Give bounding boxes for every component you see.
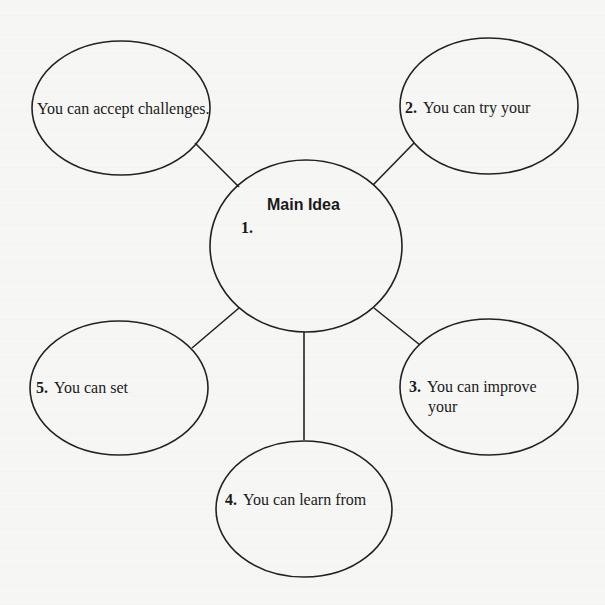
node-4-number: 4. xyxy=(225,491,237,508)
connector-top-right xyxy=(373,143,414,185)
idea-web-diagram: Main Idea 1. You can accept challenges. … xyxy=(0,0,605,605)
bubble-bottom xyxy=(216,441,392,577)
node-5-text: 5.You can set xyxy=(36,378,128,397)
node-5-number: 5. xyxy=(36,379,48,396)
node-example-text: You can accept challenges. xyxy=(37,99,210,118)
node-3-label: You can improve xyxy=(427,378,536,395)
node-4-text: 4.You can learn from xyxy=(225,490,366,509)
node-3-number: 3. xyxy=(409,378,421,395)
connector-bottom-left xyxy=(192,308,239,348)
main-idea-title: Main Idea xyxy=(267,196,340,214)
connector-bottom-right xyxy=(374,308,420,345)
node-3-text-line2: your xyxy=(428,397,457,416)
main-idea-number: 1. xyxy=(241,219,253,237)
node-5-label: You can set xyxy=(54,379,128,396)
node-2-text: 2.You can try your xyxy=(405,98,530,117)
node-2-label: You can try your xyxy=(423,99,530,116)
node-example-label: You can accept challenges. xyxy=(37,100,210,117)
node-2-number: 2. xyxy=(405,99,417,116)
diagram-svg xyxy=(0,0,605,605)
node-3-label-line2: your xyxy=(428,398,457,415)
node-4-label: You can learn from xyxy=(243,491,366,508)
connector-top-left xyxy=(195,143,239,187)
node-3-text: 3.You can improve xyxy=(409,377,536,396)
